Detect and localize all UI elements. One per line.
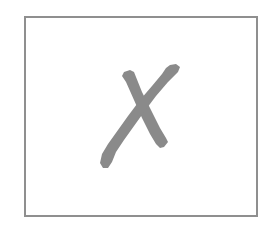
x-mark-icon	[0, 0, 272, 229]
x-stroke-ascending	[100, 64, 180, 168]
